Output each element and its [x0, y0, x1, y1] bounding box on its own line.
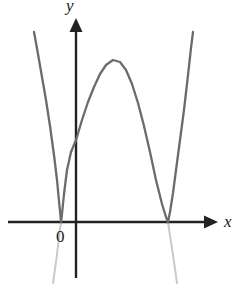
- x-axis-arrowhead: [204, 216, 218, 229]
- plot-canvas: [0, 0, 245, 285]
- graph-figure: y x 0: [0, 0, 245, 285]
- origin-label: 0: [56, 228, 65, 245]
- y-axis-arrowhead: [70, 18, 83, 32]
- x-axis-label: x: [224, 213, 232, 230]
- y-axis-label: y: [66, 0, 74, 14]
- quartic-curve: [34, 32, 193, 222]
- faint-extension-right-curve: [168, 222, 177, 283]
